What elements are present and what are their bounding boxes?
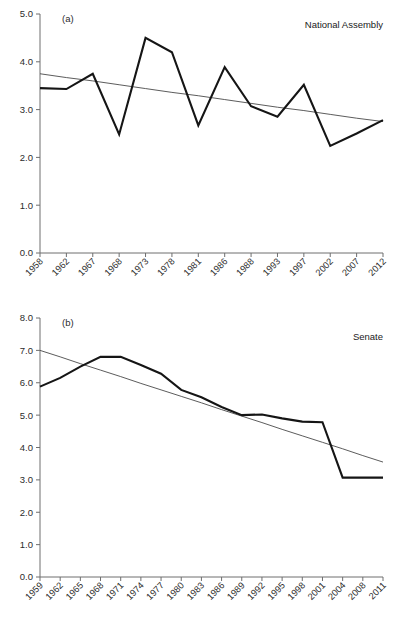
x-tick-label: 1974	[124, 580, 146, 602]
x-tick-label: 2007	[340, 256, 362, 278]
x-tick-label: 1988	[234, 256, 256, 278]
y-tick-label: 5.0	[20, 410, 33, 421]
data-series-line	[40, 38, 383, 146]
data-series-line	[40, 357, 383, 478]
x-tick-label: 1992	[245, 580, 267, 602]
chart-axes	[40, 14, 383, 253]
x-tick-label: 1968	[84, 580, 106, 602]
x-tick-label: 1973	[129, 256, 151, 278]
y-tick-label: 2.0	[20, 152, 33, 163]
x-tick-label: 1971	[104, 580, 126, 602]
y-tick-label: 2.0	[20, 507, 33, 518]
x-tick-label: 2011	[367, 580, 388, 601]
x-tick-label: 1989	[225, 580, 247, 602]
chart-panel-national-assembly: 0.01.02.03.04.05.01958196219671968197319…	[0, 0, 403, 300]
x-tick-label: 1986	[208, 256, 230, 278]
series-title-label: National Assembly	[305, 19, 383, 30]
x-tick-label: 1965	[64, 580, 86, 602]
y-tick-label: 3.0	[20, 104, 33, 115]
panel-tag-label: (b)	[62, 317, 74, 328]
x-tick-label: 2001	[306, 580, 328, 602]
x-tick-label: 2002	[314, 256, 336, 278]
x-tick-label: 1958	[23, 256, 45, 278]
x-tick-label: 1977	[144, 580, 166, 602]
x-tick-label: 1983	[185, 580, 207, 602]
y-tick-label: 5.0	[20, 8, 33, 19]
national-assembly-line-chart: 0.01.02.03.04.05.01958196219671968197319…	[0, 0, 403, 300]
y-tick-label: 1.0	[20, 539, 33, 550]
x-tick-label: 2012	[366, 256, 388, 278]
chart-panel-senate: 0.01.02.03.04.05.06.07.08.01959196219651…	[0, 300, 403, 624]
y-tick-label: 4.0	[20, 56, 33, 67]
y-tick-label: 4.0	[20, 442, 33, 453]
x-tick-label: 1980	[165, 580, 187, 602]
x-tick-label: 1981	[182, 256, 204, 278]
senate-line-chart: 0.01.02.03.04.05.06.07.08.01959196219651…	[0, 300, 403, 624]
x-tick-label: 1995	[265, 580, 287, 602]
series-title-label: Senate	[353, 331, 383, 342]
x-tick-label: 1978	[155, 256, 177, 278]
y-tick-label: 7.0	[20, 345, 33, 356]
x-tick-label: 1986	[205, 580, 227, 602]
y-tick-label: 1.0	[20, 200, 33, 211]
x-tick-label: 2004	[326, 580, 348, 602]
x-tick-label: 1968	[103, 256, 125, 278]
x-tick-label: 1993	[261, 256, 283, 278]
figure-container: 0.01.02.03.04.05.01958196219671968197319…	[0, 0, 403, 624]
x-tick-label: 1997	[287, 256, 309, 278]
x-tick-label: 1962	[50, 256, 72, 278]
x-tick-label: 1967	[76, 256, 98, 278]
y-tick-label: 8.0	[20, 312, 33, 323]
y-tick-label: 3.0	[20, 474, 33, 485]
y-tick-label: 6.0	[20, 377, 33, 388]
y-tick-label: 0.0	[20, 247, 33, 258]
x-tick-label: 2008	[346, 580, 368, 602]
panel-tag-label: (a)	[62, 13, 74, 24]
x-tick-label: 1998	[286, 580, 308, 602]
x-tick-label: 1962	[44, 580, 66, 602]
y-tick-label: 0.0	[20, 571, 33, 582]
x-tick-label: 1959	[23, 580, 45, 602]
